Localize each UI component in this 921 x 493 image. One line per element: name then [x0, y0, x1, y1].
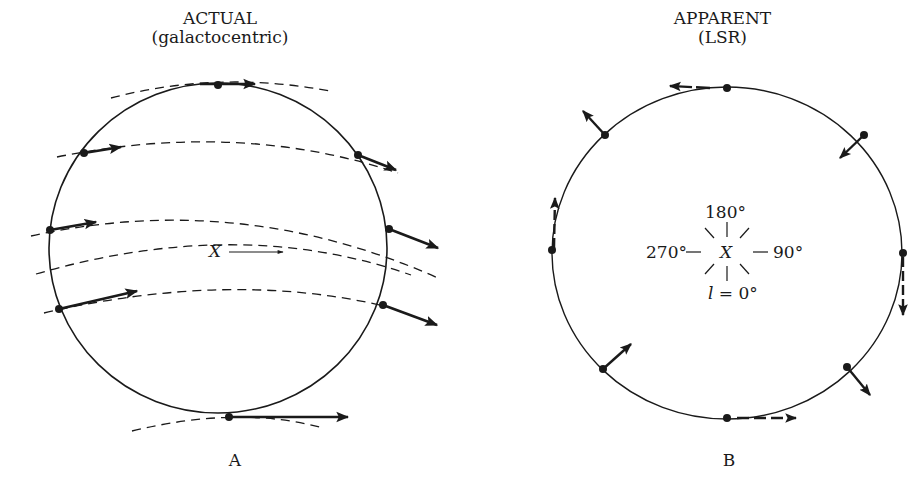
longitude-symbol: l [708, 283, 713, 303]
longitude-0-label: l = 0° [708, 283, 758, 303]
panel-b-diagram [470, 0, 921, 493]
longitude-90-label: 90° [773, 242, 803, 262]
panel-apparent: APPARENT (LSR) [470, 0, 921, 493]
panel-actual: ACTUAL (galactocentric) [0, 0, 470, 493]
rotation-paths [31, 82, 438, 431]
panel-a-caption: A [220, 450, 250, 470]
panel-b-caption: B [714, 450, 744, 470]
longitude-0-value: 0° [739, 283, 758, 303]
panel-a-diagram [0, 0, 470, 493]
panel-b-center-x: X [720, 242, 732, 262]
longitude-180-label: 180° [705, 202, 746, 222]
equals-sign: = [719, 283, 733, 303]
velocity-arrows [50, 84, 438, 417]
panel-a-center-x: X [209, 241, 221, 261]
longitude-270-label: 270° [646, 242, 687, 262]
